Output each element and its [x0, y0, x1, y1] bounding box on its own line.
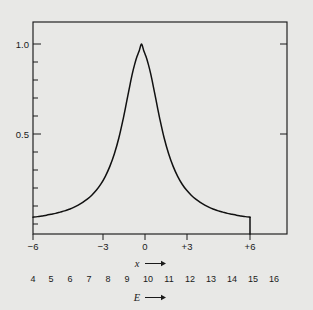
x-axis-ticks: [33, 234, 250, 240]
e-tick-label-13: 13: [206, 274, 216, 284]
e-tick-label-4: 4: [30, 274, 35, 284]
resonance-chart: 1.0 0.5 −6 −3 0 +3 +6 --> x 4 5 6 7 8: [0, 0, 313, 310]
x-tick-label--6: −6: [28, 241, 39, 252]
e-tick-label-6: 6: [67, 274, 72, 284]
x-tick-label-+6: +6: [245, 241, 256, 252]
y-axis-ticks: [33, 44, 41, 224]
x-axis-title: x: [134, 258, 140, 269]
e-axis-title: E: [133, 292, 141, 303]
e-tick-label-5: 5: [48, 274, 53, 284]
x-tick-label--3: −3: [98, 241, 109, 252]
e-tick-label-7: 7: [86, 274, 91, 284]
y-tick-label-1-0: 1.0: [16, 39, 29, 50]
figure-container: 1.0 0.5 −6 −3 0 +3 +6 --> x 4 5 6 7 8: [0, 0, 313, 310]
x-axis-arrow-head: [161, 261, 166, 266]
x-tick-label-+3: +3: [182, 241, 193, 252]
e-tick-label-16: 16: [269, 274, 279, 284]
e-tick-label-9: 9: [124, 274, 129, 284]
e-axis-labels: 4 5 6 7 8 9 10 11 12 13 14 15 16: [30, 274, 279, 284]
y-tick-label-0-5: 0.5: [16, 129, 29, 140]
resonance-curve: [33, 44, 250, 217]
e-tick-label-8: 8: [105, 274, 110, 284]
right-axis-ticks: [280, 44, 287, 134]
e-axis-title-group: E: [133, 292, 166, 303]
e-tick-label-12: 12: [185, 274, 195, 284]
e-tick-label-10: 10: [143, 274, 153, 284]
e-tick-label-15: 15: [248, 274, 258, 284]
e-axis-arrow-head: [161, 295, 166, 300]
e-tick-label-11: 11: [164, 274, 173, 284]
x-axis-title-group: x: [134, 258, 166, 269]
plot-frame: [33, 22, 287, 234]
x-tick-label-0: 0: [142, 241, 147, 252]
e-tick-label-14: 14: [227, 274, 237, 284]
